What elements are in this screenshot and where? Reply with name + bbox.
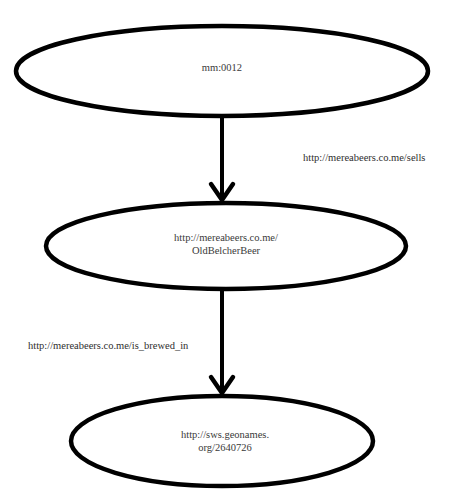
rdf-diagram: mm:0012 http://mereabeers.co.me/ OldBelc… xyxy=(0,0,455,504)
edge-sells-arrow xyxy=(211,116,233,200)
edge-label-is-brewed-in: http://mereabeers.co.me/is_brewed_in xyxy=(28,339,188,352)
node-label-geonames: http://sws.geonames. org/2640726 xyxy=(181,428,269,454)
node-label-line: http://mereabeers.co.me/ xyxy=(174,231,278,244)
edge-is-brewed-in-arrow xyxy=(211,289,233,393)
node-label-oldbelcherbeer: http://mereabeers.co.me/ OldBelcherBeer xyxy=(174,231,278,257)
node-label-line: http://sws.geonames. xyxy=(181,428,269,441)
edge-label-sells: http://mereabeers.co.me/sells xyxy=(303,151,425,164)
node-label-mm0012: mm:0012 xyxy=(202,61,242,74)
node-label-line: org/2640726 xyxy=(181,441,269,454)
node-label-line: mm:0012 xyxy=(202,61,242,74)
node-label-line: OldBelcherBeer xyxy=(174,244,278,257)
